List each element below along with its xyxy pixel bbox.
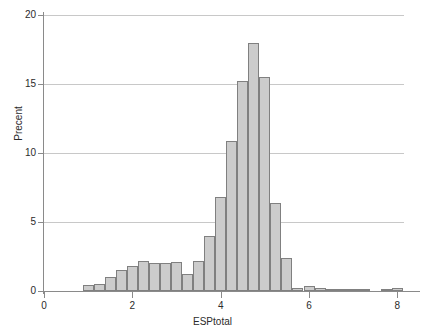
histogram-bar	[326, 289, 337, 291]
y-tick-label: 20	[25, 10, 36, 20]
histogram-bar	[127, 266, 138, 291]
histogram-bar	[237, 81, 248, 291]
histogram-bar	[304, 286, 315, 291]
histogram-bar	[226, 141, 237, 291]
plot-area	[44, 15, 404, 291]
x-tick-label: 6	[299, 301, 319, 311]
x-tick-label: 4	[211, 301, 231, 311]
histogram-bar	[259, 77, 270, 291]
histogram-bar	[83, 285, 94, 291]
histogram-bar	[182, 274, 193, 291]
histogram-bar	[204, 236, 215, 291]
histogram-bar	[116, 270, 127, 291]
histogram-bar	[248, 43, 259, 291]
histogram-bar	[215, 197, 226, 291]
histogram-bar	[193, 261, 204, 291]
y-tick-label: 10	[25, 148, 36, 158]
gridline	[44, 15, 404, 16]
histogram-bar	[94, 284, 105, 291]
histogram-bar	[359, 289, 370, 291]
y-tick-label: 15	[25, 79, 36, 89]
x-axis-label: ESPtotal	[0, 316, 425, 327]
histogram-bar	[337, 289, 348, 291]
x-tick-label: 0	[34, 301, 54, 311]
x-tick-label: 2	[122, 301, 142, 311]
histogram-bar	[315, 288, 326, 291]
histogram-bar	[348, 289, 359, 291]
histogram-bar	[160, 263, 171, 291]
histogram-bar	[171, 262, 182, 291]
gridline	[44, 153, 404, 154]
x-tick-mark	[221, 292, 222, 298]
histogram-bar	[281, 258, 292, 291]
histogram-bar	[138, 261, 149, 291]
x-tick-mark	[132, 292, 133, 298]
y-axis-label: Precent	[13, 84, 24, 164]
histogram-bar	[270, 203, 281, 291]
y-tick-label: 5	[30, 217, 36, 227]
histogram-bar	[392, 288, 403, 291]
histogram-figure: 05101520 02468 Precent ESPtotal	[0, 0, 425, 336]
y-tick-label: 0	[30, 286, 36, 296]
histogram-bar	[149, 263, 160, 291]
x-tick-mark	[309, 292, 310, 298]
x-tick-mark	[44, 292, 45, 298]
x-tick-label: 8	[387, 301, 407, 311]
x-tick-mark	[397, 292, 398, 298]
histogram-bar	[292, 288, 303, 291]
histogram-bar	[105, 277, 116, 291]
x-axis-spine	[38, 291, 420, 292]
histogram-bar	[381, 289, 392, 291]
gridline	[44, 84, 404, 85]
